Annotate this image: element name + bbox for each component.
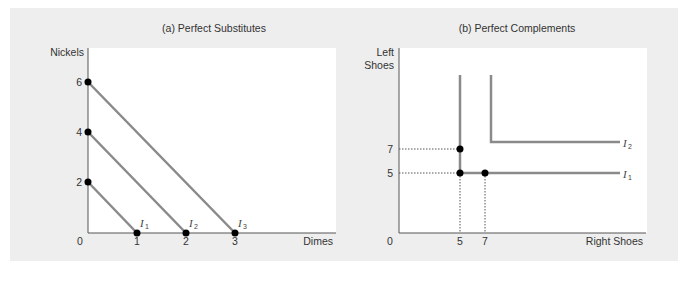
- x-tick-5: 5: [457, 235, 463, 247]
- y-axis-label-b-line1: Left: [376, 46, 394, 58]
- data-point: [232, 230, 239, 237]
- data-point: [183, 230, 190, 237]
- chart-title-b: (b) Perfect Complements: [459, 22, 576, 34]
- plot-area-a: [88, 48, 336, 233]
- x-axis-label-a: Dimes: [303, 235, 333, 247]
- svg-text:1: 1: [628, 174, 632, 181]
- x-tick-2: 2: [183, 235, 189, 247]
- y-axis-label-b-line2: Shoes: [364, 59, 394, 71]
- data-point: [457, 170, 464, 177]
- svg-text:1: 1: [145, 223, 149, 230]
- svg-text:3: 3: [243, 223, 247, 230]
- plot-area-b: [399, 48, 647, 233]
- data-point: [85, 79, 92, 86]
- y-tick-7: 7: [387, 143, 393, 155]
- y-tick-2: 2: [76, 176, 82, 188]
- chart-title-a: (a) Perfect Substitutes: [162, 22, 266, 34]
- figure-canvas: (a) Perfect Substitutes Nickels Dimes 0 …: [0, 0, 692, 284]
- data-point: [482, 170, 489, 177]
- data-point: [457, 146, 464, 153]
- y-tick-4: 4: [76, 126, 82, 138]
- origin-label-b: 0: [387, 235, 393, 247]
- x-tick-7: 7: [482, 235, 488, 247]
- origin-label-a: 0: [77, 235, 83, 247]
- y-tick-5: 5: [387, 167, 393, 179]
- data-point: [85, 129, 92, 136]
- y-tick-6: 6: [76, 76, 82, 88]
- x-tick-1: 1: [134, 235, 140, 247]
- panel-a-perfect-substitutes: (a) Perfect Substitutes Nickels Dimes 0 …: [50, 22, 336, 247]
- panel-b-perfect-complements: (b) Perfect Complements Left Shoes Right…: [364, 22, 647, 247]
- svg-text:2: 2: [194, 223, 198, 230]
- x-axis-label-b: Right Shoes: [586, 235, 643, 247]
- data-point: [134, 230, 141, 237]
- x-tick-3: 3: [232, 235, 238, 247]
- svg-text:2: 2: [628, 143, 632, 150]
- y-axis-label-a: Nickels: [50, 46, 84, 58]
- data-point: [85, 179, 92, 186]
